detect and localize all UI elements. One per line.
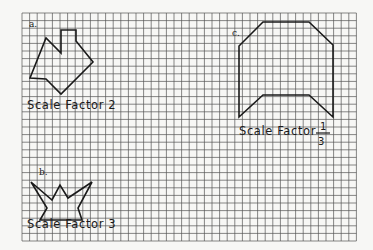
figure-c-caption: Scale Factor xyxy=(239,124,316,138)
figure-a-house-shape xyxy=(30,30,93,94)
figure-b-label: b. xyxy=(39,167,48,177)
figure-c-octagon-shape xyxy=(239,22,333,117)
figure-c-fraction-numerator: 1 xyxy=(320,121,326,132)
figure-a-caption: Scale Factor 2 xyxy=(27,98,116,112)
figure-b-caption: Scale Factor 3 xyxy=(27,217,116,231)
figure-c-label: c. xyxy=(232,28,240,38)
figure-a-label: a. xyxy=(29,19,37,29)
figure-c-fraction-denominator: 3 xyxy=(318,136,324,147)
grid-paper-diagram: a. Scale Factor 2 b. Scale Factor 3 c. S… xyxy=(0,0,373,250)
